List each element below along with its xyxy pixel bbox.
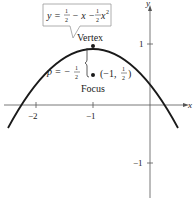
focus-coordinates: (−1, [100,68,116,80]
vertex-label: Vertex [77,32,103,43]
vertex-point [91,44,95,48]
svg-text:1: 1 [75,65,78,71]
focus-point [91,73,95,77]
y-axis-label: y [145,0,150,8]
y-tick-label: 1 [139,39,144,49]
p-label: p = − [46,66,71,77]
svg-text:2: 2 [96,17,99,23]
svg-text:2: 2 [65,17,68,23]
svg-text:2: 2 [122,75,125,81]
p-brace [85,48,89,77]
x-tick-label: −2 [28,111,38,121]
svg-text:1: 1 [96,8,99,14]
x-axis-label: x [187,100,192,110]
svg-text:): ) [128,68,131,80]
svg-text:1: 1 [65,8,68,14]
svg-text:1: 1 [122,66,125,72]
parabola-diagram: y = 1 2 − x − 1 2 x 2 Vertex Focus p = −… [0,0,193,198]
y-tick-label: −1 [133,158,143,168]
svg-text:2: 2 [75,74,78,80]
x-tick-label: −1 [86,111,96,121]
focus-label: Focus [81,83,105,94]
svg-text:2: 2 [106,9,109,15]
eq-lhs: y = [46,10,61,21]
svg-text:− x −: − x − [72,10,95,21]
